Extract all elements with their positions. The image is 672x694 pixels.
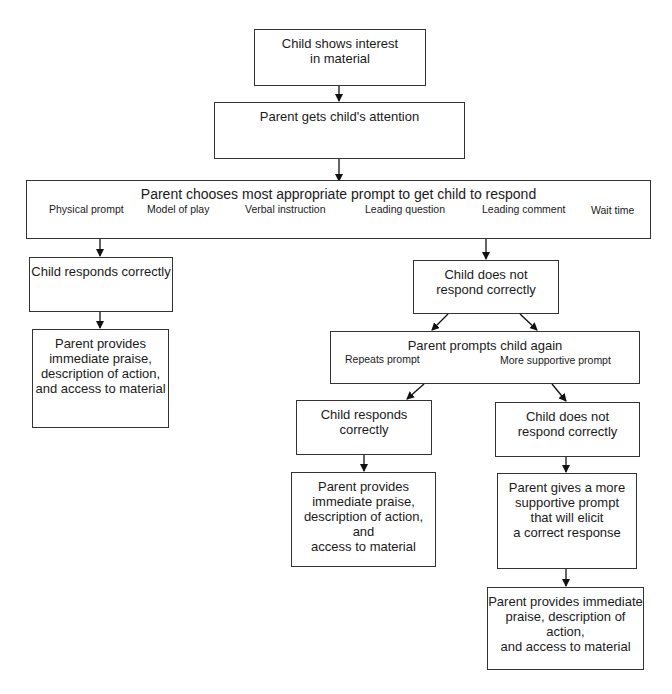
option-more-supportive-prompt: More supportive prompt xyxy=(500,353,611,368)
option-wait-time: Wait time xyxy=(591,203,634,218)
option-model-of-play: Model of play xyxy=(147,202,209,217)
option-leading-question: Leading question xyxy=(365,202,445,217)
node-child-does-not-respond-1: Child does not respond correctly xyxy=(413,260,559,314)
node-parent-prompts-again: Parent prompts child again Repeats promp… xyxy=(330,331,640,384)
option-verbal-instruction: Verbal instruction xyxy=(245,202,326,217)
node-label: Child responds correctly xyxy=(297,407,431,437)
node-parent-gets-attention: Parent gets child's attention xyxy=(214,102,465,159)
node-parent-provides-praise-2: Parent provides immediate praise, descri… xyxy=(291,472,436,567)
node-child-responds-correctly-1: Child responds correctly xyxy=(29,257,173,312)
node-label: Parent gives a more supportive prompt th… xyxy=(498,480,636,540)
node-label: Child shows interest in material xyxy=(255,36,425,66)
node-label: Parent chooses most appropriate prompt t… xyxy=(27,187,650,202)
node-child-shows-interest: Child shows interest in material xyxy=(254,29,426,86)
node-label: Child does not respond correctly xyxy=(496,409,639,439)
node-label: Parent prompts child again xyxy=(331,338,639,353)
node-label: Parent provides immediate praise, descri… xyxy=(33,336,168,396)
node-label: Parent gets child's attention xyxy=(215,109,464,124)
node-parent-provides-praise-1: Parent provides immediate praise, descri… xyxy=(32,329,169,428)
option-physical-prompt: Physical prompt xyxy=(49,202,124,217)
node-parent-provides-praise-3: Parent provides immediate praise, descri… xyxy=(487,587,644,670)
node-label: Child does not respond correctly xyxy=(414,267,558,297)
node-child-responds-correctly-2: Child responds correctly xyxy=(296,400,432,455)
node-parent-gives-supportive-prompt: Parent gives a more supportive prompt th… xyxy=(497,473,637,569)
node-label: Parent provides immediate praise, descri… xyxy=(488,594,643,654)
node-child-does-not-respond-2: Child does not respond correctly xyxy=(495,402,640,457)
option-repeats-prompt: Repeats prompt xyxy=(345,352,420,367)
option-leading-comment: Leading comment xyxy=(482,202,565,217)
node-label: Parent provides immediate praise, descri… xyxy=(292,479,435,554)
node-label: Child responds correctly xyxy=(30,264,172,279)
node-parent-chooses-prompt: Parent chooses most appropriate prompt t… xyxy=(26,180,651,239)
